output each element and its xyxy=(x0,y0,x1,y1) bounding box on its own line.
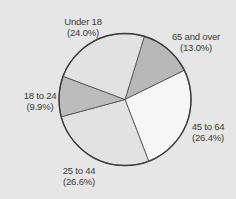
label-18-to-24-name: 18 to 24 xyxy=(20,90,60,101)
label-18-to-24: 18 to 24 (9.9%) xyxy=(20,90,60,112)
label-65-and-over-name: 65 and over xyxy=(166,31,226,42)
label-18-to-24-pct: (9.9%) xyxy=(20,101,60,112)
label-under-18-name: Under 18 xyxy=(58,16,108,27)
label-under-18-pct: (24.0%) xyxy=(58,27,108,38)
label-45-to-64-pct: (26.4%) xyxy=(187,132,229,143)
label-45-to-64: 45 to 64 (26.4%) xyxy=(187,121,229,143)
label-25-to-44-name: 25 to 44 xyxy=(58,165,100,176)
label-45-to-64-name: 45 to 64 xyxy=(187,121,229,132)
label-25-to-44: 25 to 44 (26.6%) xyxy=(58,165,100,187)
label-25-to-44-pct: (26.6%) xyxy=(58,176,100,187)
label-65-and-over: 65 and over (13.0%) xyxy=(166,31,226,53)
label-65-and-over-pct: (13.0%) xyxy=(166,42,226,53)
label-under-18: Under 18 (24.0%) xyxy=(58,16,108,38)
